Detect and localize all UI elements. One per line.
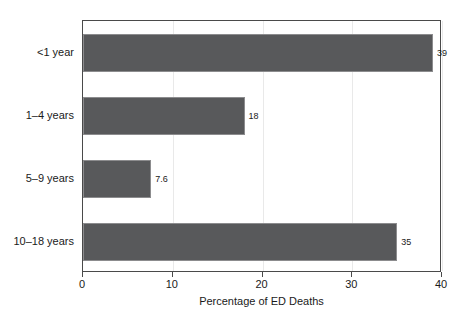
x-tick-mark bbox=[351, 272, 352, 277]
category-label: 1–4 years bbox=[26, 109, 74, 120]
bar-value-label: 7.6 bbox=[155, 174, 168, 183]
x-tick-label: 20 bbox=[255, 279, 267, 290]
plot-area: 39187.635 bbox=[82, 20, 441, 272]
gridline-40 bbox=[442, 21, 443, 271]
x-axis-title: Percentage of ED Deaths bbox=[82, 296, 441, 307]
bar-series: 39187.635 bbox=[83, 21, 440, 271]
category-axis-labels: <1 year1–4 years5–9 years10–18 years bbox=[0, 20, 78, 272]
x-tick-label: 10 bbox=[166, 279, 178, 290]
bar-row: 39 bbox=[83, 34, 442, 72]
x-tick-label: 40 bbox=[435, 279, 447, 290]
category-label: 10–18 years bbox=[13, 235, 74, 246]
category-label: 5–9 years bbox=[26, 172, 74, 183]
x-axis: Percentage of ED Deaths 010203040 bbox=[82, 272, 441, 317]
x-tick-mark bbox=[441, 272, 442, 277]
bar-chart-figure: 39187.635 <1 year1–4 years5–9 years10–18… bbox=[0, 0, 463, 317]
bar[interactable] bbox=[83, 223, 397, 261]
category-label: <1 year bbox=[37, 46, 74, 57]
x-tick-label: 0 bbox=[79, 279, 85, 290]
bar[interactable] bbox=[83, 160, 151, 198]
bar-row: 7.6 bbox=[83, 160, 442, 198]
bar-row: 35 bbox=[83, 223, 442, 261]
x-tick-mark bbox=[172, 272, 173, 277]
bar-row: 18 bbox=[83, 97, 442, 135]
x-tick-mark bbox=[82, 272, 83, 277]
x-tick-mark bbox=[262, 272, 263, 277]
bar[interactable] bbox=[83, 97, 245, 135]
bar-value-label: 35 bbox=[401, 237, 411, 246]
bar-value-label: 39 bbox=[437, 48, 447, 57]
bar[interactable] bbox=[83, 34, 433, 72]
bar-value-label: 18 bbox=[249, 111, 259, 120]
x-tick-label: 30 bbox=[345, 279, 357, 290]
